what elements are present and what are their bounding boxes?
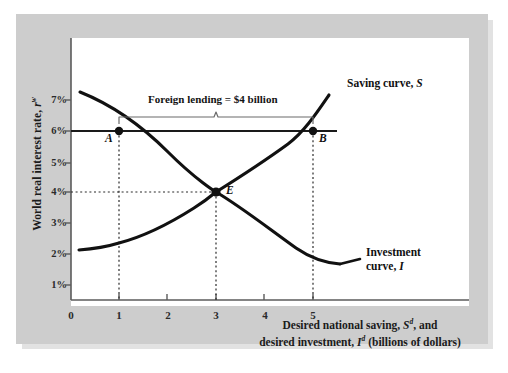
- investment-label-leader: [340, 259, 360, 264]
- figure-root: World real interest rate, rw 7% 6% 5% 4%…: [0, 0, 508, 373]
- investment-curve-label-text2: curve,: [366, 260, 399, 272]
- saving-curve: [79, 95, 329, 250]
- saving-curve-label-symbol: S: [416, 77, 422, 89]
- point-e-marker: [211, 187, 220, 196]
- saving-curve-label-text: Saving curve,: [347, 77, 416, 89]
- investment-curve-label-line2: curve, I: [366, 259, 421, 273]
- point-a-marker: [115, 127, 123, 135]
- x-axis-title-l1a: Desired national saving,: [282, 319, 403, 331]
- y-tick-marks: [65, 100, 71, 285]
- foreign-lending-label: Foreign lending = $4 billion: [148, 93, 278, 105]
- point-a-label: A: [105, 132, 113, 144]
- x-axis-title: Desired national saving, Sd, and desired…: [215, 315, 505, 349]
- point-b-marker: [309, 127, 317, 135]
- x-axis-title-line2: desired investment, Id (billions of doll…: [215, 332, 505, 349]
- point-b-label: B: [319, 132, 327, 144]
- x-axis-title-l2b: (billions of dollars): [365, 336, 461, 348]
- drop-lines: [71, 131, 313, 300]
- saving-curve-label: Saving curve, S: [347, 76, 423, 90]
- point-e-label: E: [226, 184, 234, 196]
- investment-curve-label-symbol: I: [399, 260, 403, 272]
- x-axis-title-l2a: desired investment,: [259, 336, 357, 348]
- foreign-lending-brace: [119, 112, 313, 124]
- x-axis-title-l1b: , and: [413, 319, 437, 331]
- investment-curve-label-line1: Investment: [366, 245, 421, 259]
- x-axis-title-line1: Desired national saving, Sd, and: [215, 315, 505, 332]
- investment-curve-label: Investment curve, I: [366, 245, 421, 273]
